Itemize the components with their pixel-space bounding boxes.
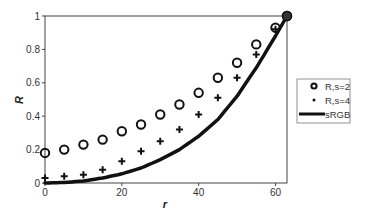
y-axis-title: R	[13, 96, 25, 104]
x-tick-label: 40	[193, 187, 205, 198]
x-tick-label: 60	[270, 187, 282, 198]
x-tick-label: 0	[42, 187, 48, 198]
y-tick-label: 0.4	[26, 111, 40, 122]
legend-label: R,s=2	[325, 81, 350, 92]
y-tick-label: 0.2	[26, 144, 40, 155]
legend-label: R,s=4	[325, 95, 350, 106]
chart: 00.20.40.60.81 0204060 R r R,s=2 R,s=4 s…	[0, 0, 366, 215]
y-tick-label: 0.8	[26, 44, 40, 55]
legend-label: sRGB	[325, 109, 350, 120]
x-tick-label: 20	[116, 187, 128, 198]
x-axis-title: r	[163, 198, 168, 210]
dot-marker-icon	[313, 99, 316, 102]
y-axis: 00.20.40.60.81	[26, 11, 45, 189]
x-axis: 0204060	[42, 183, 281, 198]
y-tick-label: 1	[34, 11, 40, 22]
endpoint-marker-icon	[283, 12, 292, 21]
y-tick-label: 0	[34, 178, 40, 189]
legend: R,s=2 R,s=4 sRGB	[297, 79, 350, 123]
y-tick-label: 0.6	[26, 77, 40, 88]
